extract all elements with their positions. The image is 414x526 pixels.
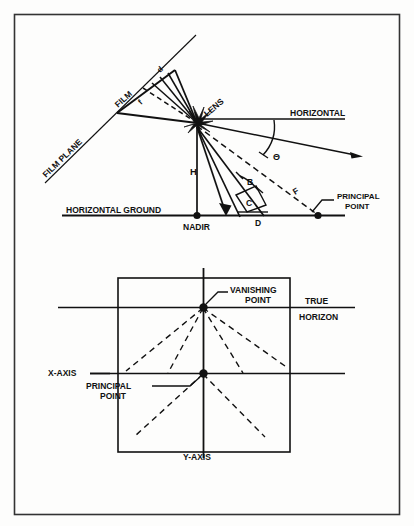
lower-principal-point-dot <box>199 369 207 377</box>
ground-ray-mid <box>197 127 240 217</box>
perspective-line-3 <box>203 308 243 373</box>
perspective-line-2 <box>168 308 203 373</box>
principal-point-label-line2: POINT <box>345 202 370 211</box>
principal-point-leader <box>312 200 334 212</box>
lower-principal-point-label-line2: POINT <box>100 391 127 401</box>
perspective-line-6 <box>203 374 265 437</box>
film-plane-label: FILM PLANE <box>40 137 84 180</box>
horizon-label: HORIZON <box>299 312 338 322</box>
vanishing-point-label-line2: POINT <box>245 295 272 305</box>
horizontal-ground-label: HORIZONTAL GROUND <box>66 205 161 215</box>
principal-point-dot <box>314 212 321 219</box>
angle-c-label: C <box>246 198 252 208</box>
theta-arc-tick <box>259 152 268 158</box>
nadir-label: NADIR <box>183 222 210 232</box>
diagram-svg: FILM PLANE FILM d f LENS HORIZONTAL HORI… <box>0 0 414 526</box>
distance-d-label: D <box>255 218 261 228</box>
lens-label: LENS <box>202 96 226 118</box>
principal-point-label-line1: PRINCIPAL <box>337 192 380 201</box>
film-angle-f-label: f <box>136 98 144 107</box>
optical-axis-line <box>197 123 355 155</box>
height-h-label: H <box>190 166 197 177</box>
film-triangle-base <box>117 113 197 123</box>
true-label: TRUE <box>305 296 328 306</box>
ground-ray-left <box>197 127 224 208</box>
figure-root: FILM PLANE FILM d f LENS HORIZONTAL HORI… <box>0 0 414 526</box>
horizontal-label: HORIZONTAL <box>290 108 345 118</box>
x-axis-label: X-AXIS <box>48 368 77 378</box>
angle-b-label: B <box>247 177 253 187</box>
nadir-point <box>193 212 200 219</box>
perspective-line-1 <box>126 308 203 371</box>
figure-border <box>15 15 400 515</box>
lower-diagram: VANISHING POINT TRUE HORIZON X-AXIS Y-AX… <box>48 268 355 462</box>
theta-label: Θ <box>273 152 280 162</box>
vanishing-point-dot <box>199 303 207 311</box>
optical-axis-arrowhead <box>350 152 363 159</box>
ground-ray-right <box>197 127 264 216</box>
lower-principal-point-leader <box>152 377 200 386</box>
film-ray-4 <box>152 83 197 123</box>
y-axis-label: Y-AXIS <box>183 452 211 462</box>
vanishing-point-label-line1: VANISHING <box>230 285 277 295</box>
lower-principal-point-label-line1: PRINCIPAL <box>86 381 131 391</box>
upper-diagram: FILM PLANE FILM d f LENS HORIZONTAL HORI… <box>40 35 379 232</box>
principal-ray-dashed <box>197 126 318 215</box>
perspective-line-4 <box>203 308 285 366</box>
b-arc-tick <box>236 172 243 179</box>
film-plane-line <box>45 35 196 183</box>
film-ray-1 <box>175 70 197 123</box>
ground-ray-arrowhead <box>219 203 232 216</box>
distance-f-label: F <box>291 185 301 196</box>
film-ray-3 <box>160 77 197 123</box>
vanishing-point-leader <box>206 292 228 304</box>
